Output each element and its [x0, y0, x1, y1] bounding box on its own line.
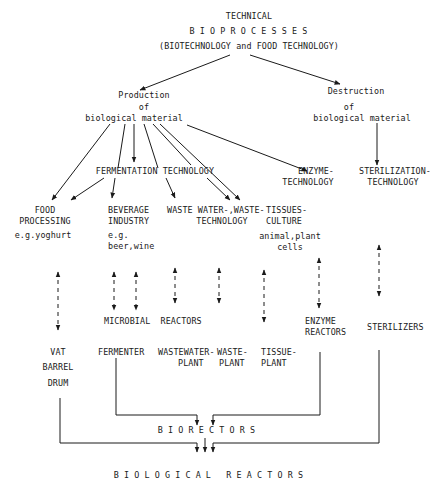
equipment-wastewater-plant-2: PLANT [178, 358, 204, 369]
food-processing-1: FOOD [35, 205, 56, 216]
destruction-label-1: Destruction [328, 86, 385, 97]
beverage-industry-example-1: e.g. [108, 230, 129, 241]
enzyme-reactors-1: ENZYME [305, 316, 336, 327]
sterilization-technology-1: STERILIZATION- [359, 166, 431, 177]
sterilizers: STERILIZERS [367, 322, 424, 333]
arrow-fermentation-to-beverage [112, 178, 115, 198]
title-subtitle: (BIOTECHNOLOGY and FOOD TECHNOLOGY) [159, 41, 339, 52]
line-to-fermentation-left [118, 124, 125, 168]
production-label-2: of [139, 102, 149, 113]
production-label-3: biological material [85, 113, 183, 124]
biorectors-label: BIORECTORS [158, 425, 260, 436]
enzyme-technology-2: TECHNOLOGY [282, 177, 333, 188]
line-to-fermentation-far [153, 124, 191, 165]
beverage-industry-1: BEVERAGE [108, 205, 149, 216]
arrow-to-production [140, 55, 230, 90]
equipment-wastewater-plant-1: WASTEWATER- [158, 347, 215, 358]
sterilization-technology-2: TECHNOLOGY [367, 177, 418, 188]
biological-reactors-label: BIOLOGICAL REACTORS [114, 470, 309, 481]
connector-lines [0, 0, 448, 491]
arrow-to-food-processing [52, 124, 110, 200]
equipment-waste-plant-2: PLANT [219, 358, 245, 369]
beverage-industry-2: INDUSTRY [108, 216, 149, 227]
beverage-industry-example-2: beer,wine [108, 241, 154, 252]
arrow-fermentation-to-waste [166, 178, 175, 198]
equipment-tissue-plant-2: PLANT [261, 358, 287, 369]
enzyme-technology-1: ENZYME- [298, 166, 334, 177]
food-processing-2: PROCESSING [19, 216, 70, 227]
tissues-culture-example-1: animal,plant [259, 231, 321, 242]
waste-water-1: WASTE WATER-,WASTE- [167, 205, 265, 216]
arrow-fermentation-to-waste-tech [207, 178, 230, 200]
title-technical: TECHNICAL [226, 11, 272, 22]
production-label-1: Production [118, 90, 169, 101]
bioprocess-diagram: TECHNICAL BIOPROCESSES (BIOTECHNOLOGY an… [0, 0, 448, 491]
food-processing-example: e.g.yoghurt [15, 230, 72, 241]
arrow-fermentation-to-food [71, 178, 104, 200]
equipment-drum: DRUM [48, 378, 69, 389]
destruction-label-3: biological material [313, 113, 411, 124]
line-to-fermentation-right [144, 124, 158, 168]
waste-water-2: TECHNOLOGY [196, 216, 247, 227]
fermentation-technology: FERMENTATION TECHNOLOGY [96, 166, 214, 177]
equipment-waste-plant-1: WASTE- [217, 347, 248, 358]
microbial-reactors: MICROBIAL REACTORS [104, 316, 202, 327]
tissues-culture-example-2: cells [277, 242, 303, 253]
equipment-tissue-plant-1: TISSUE- [261, 347, 297, 358]
equipment-barrel: BARREL [43, 362, 74, 373]
arrow-to-destruction [250, 55, 340, 84]
tissues-culture-2: CULTURE [266, 216, 302, 227]
title-bioprocesses: BIOPROCESSES [190, 26, 313, 37]
tissues-culture-1: TISSUES- [266, 205, 307, 216]
equipment-vat: VAT [50, 347, 65, 358]
enzyme-reactors-2: REACTORS [305, 327, 346, 338]
equipment-fermenter: FERMENTER [98, 347, 144, 358]
arrow-to-tissues-culture [160, 124, 240, 200]
arrow-to-enzyme-technology [187, 125, 307, 171]
destruction-label-2: of [344, 102, 354, 113]
